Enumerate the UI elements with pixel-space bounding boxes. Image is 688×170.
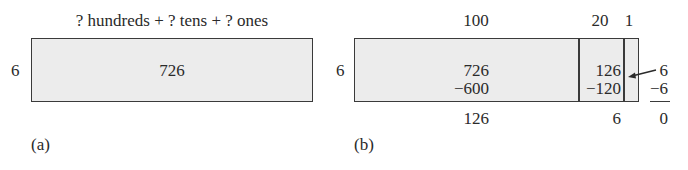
ones-subtract: −6 bbox=[650, 80, 668, 97]
tens-subtract: −120 bbox=[586, 80, 621, 97]
column-header-hundreds: 100 bbox=[463, 12, 489, 29]
hundreds-remainder: 126 bbox=[464, 110, 490, 127]
divider-hundreds-tens bbox=[578, 38, 580, 102]
divisor-label: 6 bbox=[11, 62, 20, 79]
dividend-label: 726 bbox=[159, 62, 185, 79]
divider-tens-ones bbox=[623, 38, 625, 102]
hundreds-dividend: 726 bbox=[464, 62, 490, 79]
place-value-header: ? hundreds + ? tens + ? ones bbox=[76, 12, 268, 29]
tens-remainder: 6 bbox=[613, 110, 622, 127]
ones-dividend: 6 bbox=[660, 62, 669, 79]
column-header-tens: 20 bbox=[592, 12, 609, 29]
tens-dividend: 126 bbox=[596, 62, 622, 79]
ones-remainder: 0 bbox=[660, 110, 669, 127]
panel-caption: (a) bbox=[31, 136, 50, 153]
column-header-ones: 1 bbox=[625, 12, 634, 29]
hundreds-subtract: −600 bbox=[454, 80, 489, 97]
divisor-label: 6 bbox=[336, 62, 345, 79]
panel-caption: (b) bbox=[354, 136, 374, 153]
subtraction-line bbox=[650, 101, 670, 102]
